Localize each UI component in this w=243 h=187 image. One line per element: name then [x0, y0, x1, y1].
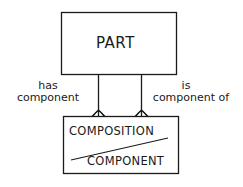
relationship-label-component: component	[15, 92, 81, 104]
entity-composition-label: COMPOSITION	[69, 124, 154, 138]
relationship-label-component-of: component of	[150, 92, 232, 104]
entity-part-label: PART	[96, 34, 135, 52]
entity-component-label: COMPONENT	[87, 154, 164, 168]
